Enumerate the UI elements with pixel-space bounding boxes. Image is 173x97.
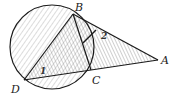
angle-label-1: 1 xyxy=(40,66,46,76)
angle-label-2: 2 xyxy=(100,31,107,41)
label-c: C xyxy=(92,74,101,87)
geometry-diagram: B D C A 1 2 xyxy=(0,0,173,97)
label-b: B xyxy=(74,1,83,14)
label-a: A xyxy=(160,54,169,67)
label-d: D xyxy=(10,83,20,96)
